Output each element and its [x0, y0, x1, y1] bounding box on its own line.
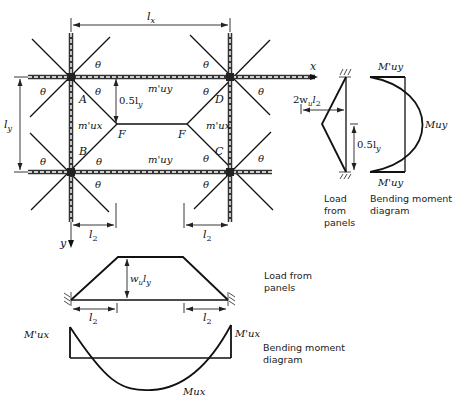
ly-label: ly — [4, 118, 13, 133]
l2-dimensions-plan — [73, 203, 228, 228]
beams — [28, 33, 315, 222]
m-uy-top: m'uy — [148, 83, 173, 94]
label-D: D — [214, 93, 224, 106]
side-load-label: 2wul2 — [293, 94, 321, 108]
x-axis-label: x — [310, 60, 317, 73]
side-load-caption-3: panels — [324, 217, 355, 228]
ly-dimension — [14, 77, 28, 172]
half-ly-label: 0.5ly — [119, 95, 143, 109]
bottom-bmd — [70, 325, 231, 390]
l2-right-label: l2 — [203, 228, 212, 243]
side-bmd-caption-2: diagram — [370, 205, 410, 216]
svg-text:θ: θ — [40, 156, 46, 167]
x-axis: x — [310, 60, 318, 80]
side-load-caption-2: from — [324, 205, 346, 216]
two-way-slab-diagram: lx x y — [0, 0, 455, 403]
label-C: C — [215, 145, 224, 158]
m-ux-left: m'ux — [78, 120, 103, 131]
svg-text:θ: θ — [258, 153, 264, 164]
bottom-bmd-caption-2: diagram — [263, 354, 303, 365]
svg-text:θ: θ — [203, 59, 209, 70]
bottom-load-caption-2: panels — [264, 282, 295, 293]
bottom-l2-right-label: l2 — [203, 311, 212, 326]
svg-text:θ: θ — [96, 156, 102, 167]
svg-text:θ: θ — [95, 86, 101, 97]
bottom-load-caption-1: Load from — [264, 270, 312, 281]
svg-text:θ: θ — [203, 179, 209, 190]
label-F-left: F — [117, 128, 126, 141]
m-uy-bottom: m'uy — [148, 154, 173, 165]
bottom-bmd-right-label: M'ux — [234, 328, 260, 339]
label-F-right: F — [177, 128, 186, 141]
l2-left-label: l2 — [89, 228, 98, 243]
side-bmd-top-label: M'uy — [377, 61, 403, 72]
side-bmd — [370, 77, 423, 172]
side-load-caption-1: Load — [324, 193, 347, 204]
bottom-load-height-label: wuly — [130, 273, 151, 287]
svg-text:θ: θ — [95, 59, 101, 70]
bottom-bmd-caption-1: Bending moment — [263, 342, 345, 353]
side-bmd-caption-1: Bending moment — [370, 193, 452, 204]
label-A: A — [78, 93, 87, 106]
side-bmd-mid-label: Muy — [424, 119, 448, 130]
svg-text:θ: θ — [203, 86, 209, 97]
y-axis: y — [59, 222, 74, 250]
bottom-bmd-mid-label: Mux — [182, 386, 206, 397]
label-B: B — [78, 145, 87, 158]
bottom-bmd-left-label: M'ux — [23, 329, 49, 340]
svg-text:θ: θ — [40, 86, 46, 97]
svg-text:θ: θ — [203, 153, 209, 164]
yield-lines — [30, 35, 273, 212]
lx-label: lx — [147, 10, 156, 25]
svg-text:θ: θ — [258, 86, 264, 97]
y-axis-label: y — [59, 237, 67, 250]
m-ux-right: m'ux — [206, 120, 231, 131]
side-half-ly-label: 0.5ly — [357, 139, 381, 153]
half-ly-dimension — [114, 79, 119, 123]
bottom-l2-left-label: l2 — [89, 311, 98, 326]
side-bmd-bottom-label: M'uy — [377, 177, 403, 188]
side-load-diagram — [301, 69, 358, 179]
svg-text:θ: θ — [95, 179, 101, 190]
